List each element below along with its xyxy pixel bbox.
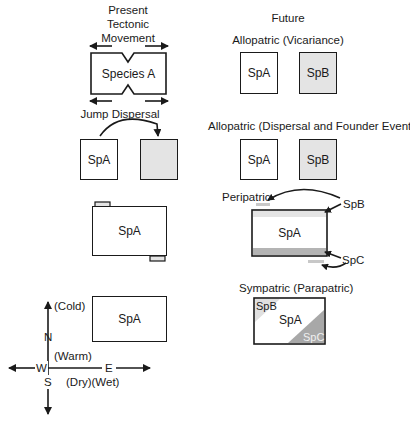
sympatric-label-spa: SpA bbox=[279, 313, 302, 327]
diagram-lines bbox=[0, 0, 410, 428]
future-title: Future bbox=[258, 11, 318, 25]
sympatric-title: Sympatric (Parapatric) bbox=[239, 281, 353, 295]
compass-dry-wet: (Dry)(Wet) bbox=[66, 375, 119, 389]
peripatric-isolate-bottom bbox=[308, 260, 324, 263]
compass-cold: (Cold) bbox=[54, 299, 85, 313]
jump-dispersal-arrow bbox=[100, 119, 158, 136]
sympatric-label-spc: SpC bbox=[303, 330, 324, 344]
dispersal-title: Allopatric (Dispersal and Founder Event) bbox=[208, 119, 408, 133]
compass-south: S bbox=[44, 375, 52, 389]
peripatric-box-label: SpA bbox=[252, 226, 327, 240]
compass-warm: (Warm) bbox=[54, 349, 92, 363]
compass-north: N bbox=[44, 330, 52, 344]
jump-box-new bbox=[140, 139, 178, 180]
vicariance-box-spb: SpB bbox=[299, 52, 337, 94]
compass-box: SpA bbox=[92, 296, 167, 342]
sympatric-label-spb: SpB bbox=[256, 299, 277, 313]
vicariance-box-spa: SpA bbox=[240, 52, 278, 94]
compass-east: E bbox=[104, 361, 114, 375]
peripatric-title: Peripatric bbox=[222, 190, 271, 204]
peripheral-box: SpA bbox=[92, 206, 167, 256]
peripatric-band-c bbox=[253, 248, 326, 255]
peripatric-label-spb: SpB bbox=[343, 197, 365, 211]
peripatric-label-spc: SpC bbox=[342, 253, 364, 267]
tectonic-box-label: Species A bbox=[91, 67, 166, 81]
peripatric-band-b bbox=[253, 211, 326, 217]
peripatric-arrow-top bbox=[268, 189, 340, 200]
spb-pointer bbox=[325, 204, 341, 212]
vicariance-title: Allopatric (Vicariance) bbox=[228, 33, 348, 47]
dispersal-box-spa: SpA bbox=[240, 139, 278, 180]
dispersal-box-spb: SpB bbox=[299, 139, 337, 180]
peripheral-bar-bottom bbox=[150, 256, 165, 261]
compass-west: W bbox=[35, 361, 48, 375]
jump-box-spa: SpA bbox=[80, 139, 118, 180]
jump-dispersal-title: Jump Dispersal bbox=[60, 107, 180, 121]
